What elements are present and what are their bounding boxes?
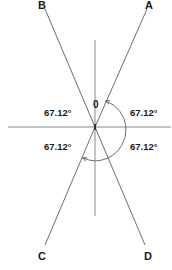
angle-diagram: B A C D 0 67.12° 67.12° 67.12° 67.12° <box>0 0 172 270</box>
angle-label-top-left: 67.12° <box>44 108 72 118</box>
point-label-a: A <box>145 0 153 11</box>
angle-label-bottom-right: 67.12° <box>130 142 158 152</box>
angle-label-top-right: 67.12° <box>130 108 158 118</box>
angle-label-bottom-left: 67.12° <box>44 142 72 152</box>
diagram-lines <box>0 0 172 270</box>
center-point <box>94 124 96 130</box>
point-label-b: B <box>38 0 46 11</box>
center-label: 0 <box>93 100 99 110</box>
point-label-d: D <box>144 251 152 262</box>
angle-arc <box>83 101 126 161</box>
point-label-c: C <box>38 251 46 262</box>
